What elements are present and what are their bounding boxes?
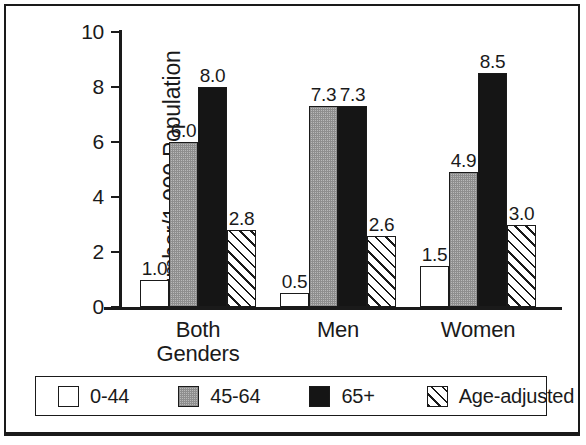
bar-value-label: 4.9 — [451, 151, 477, 170]
bar-age-adjusted-men: 2.6 — [367, 236, 396, 308]
x-category-label-both-genders: BothGenders — [118, 318, 278, 366]
bar-age-adjusted-women: 3.0 — [507, 225, 536, 308]
y-tick-label: 8 — [70, 76, 104, 97]
y-tick-label: 6 — [70, 131, 104, 152]
bar-45-64-men: 7.3 — [309, 106, 338, 307]
legend-swatch-white-icon — [58, 386, 79, 407]
bar-value-label: 7.3 — [340, 85, 366, 104]
bar-value-label: 6.0 — [171, 121, 197, 140]
bar-value-label: 1.0 — [142, 259, 168, 278]
y-tick-mark — [111, 196, 120, 198]
y-tick-mark — [111, 31, 120, 33]
y-tick-label: 4 — [70, 186, 104, 207]
bar-0-44-both-genders: 1.0 — [140, 280, 169, 308]
bar-value-label: 7.3 — [311, 85, 337, 104]
bar-value-label: 0.5 — [282, 272, 308, 291]
bar-45-64-women: 4.9 — [449, 172, 478, 307]
legend-item-0-44[interactable]: 0-44 — [58, 386, 129, 407]
bar-0-44-women: 1.5 — [420, 266, 449, 307]
bar-0-44-men: 0.5 — [280, 293, 309, 307]
x-category-label-line1: Both — [118, 318, 278, 342]
bar-65--men: 7.3 — [338, 106, 367, 307]
bar-value-label: 8.5 — [480, 52, 506, 71]
bar-value-label: 3.0 — [509, 204, 535, 223]
legend-label: Age-adjusted — [459, 386, 574, 406]
y-tick-mark — [111, 306, 120, 308]
legend-label: 65+ — [341, 386, 374, 406]
bottom-rule-divider — [4, 434, 580, 436]
y-tick-mark — [111, 141, 120, 143]
y-tick-label: 2 — [70, 241, 104, 262]
x-category-label-men: Men — [258, 318, 418, 342]
legend-label: 45-64 — [210, 386, 260, 406]
y-tick-mark — [111, 251, 120, 253]
x-category-label-line2: Genders — [118, 342, 278, 366]
y-tick-label: 0 — [70, 296, 104, 317]
bar-value-label: 2.8 — [229, 209, 255, 228]
x-axis-spine — [104, 307, 562, 310]
legend-box: 0-4445-6465+Age-adjusted — [35, 376, 547, 416]
chart-page: Number/1,000 Population 1086420 1.06.08.… — [0, 0, 586, 445]
legend-label: 0-44 — [90, 386, 129, 406]
y-tick-label: 10 — [70, 21, 104, 42]
legend-swatch-black-icon — [309, 386, 330, 407]
legend-items: 0-4445-6465+Age-adjusted — [36, 377, 546, 415]
legend-item-65-[interactable]: 65+ — [309, 386, 374, 407]
y-tick-mark — [111, 86, 120, 88]
bar-age-adjusted-both-genders: 2.8 — [227, 230, 256, 307]
y-axis-spine — [119, 30, 122, 309]
x-category-label-women: Women — [398, 318, 558, 342]
bar-value-label: 1.5 — [422, 245, 448, 264]
bar-65--women: 8.5 — [478, 73, 507, 307]
legend-swatch-hatch-icon — [427, 386, 448, 407]
legend-item-age-adjusted[interactable]: Age-adjusted — [427, 386, 574, 407]
bar-value-label: 2.6 — [369, 215, 395, 234]
x-category-label-line1: Women — [398, 318, 558, 342]
legend-swatch-gray-icon — [178, 386, 199, 407]
bar-value-label: 8.0 — [200, 66, 226, 85]
legend-item-45-64[interactable]: 45-64 — [178, 386, 260, 407]
x-category-label-line1: Men — [258, 318, 418, 342]
bar-45-64-both-genders: 6.0 — [169, 142, 198, 307]
bar-65--both-genders: 8.0 — [198, 87, 227, 307]
